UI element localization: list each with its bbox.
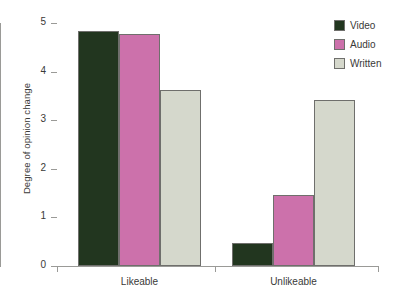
legend-swatch-icon bbox=[334, 20, 345, 31]
x-axis-label-unlikeable: Unlikeable bbox=[234, 276, 354, 287]
legend-label: Video bbox=[350, 20, 375, 31]
bar-written-unlikeable[interactable] bbox=[314, 100, 355, 266]
legend-swatch-icon bbox=[334, 58, 345, 69]
bar-audio-unlikeable[interactable] bbox=[273, 195, 314, 266]
bar-chart: Degree of opinion change 012345 Likeable… bbox=[0, 0, 402, 304]
bar-audio-likeable[interactable] bbox=[119, 34, 160, 266]
bar-video-unlikeable[interactable] bbox=[232, 243, 273, 266]
legend-swatch-icon bbox=[334, 39, 345, 50]
bar-video-likeable[interactable] bbox=[78, 31, 119, 266]
x-axis-line bbox=[57, 266, 379, 267]
bar-written-likeable[interactable] bbox=[160, 90, 201, 266]
x-axis-tick bbox=[57, 266, 58, 272]
chart-legend: VideoAudioWritten bbox=[334, 17, 382, 74]
legend-item-video[interactable]: Video bbox=[334, 17, 382, 34]
legend-item-audio[interactable]: Audio bbox=[334, 36, 382, 53]
x-axis-label-likeable: Likeable bbox=[80, 276, 200, 287]
legend-label: Written bbox=[350, 58, 382, 69]
x-axis-tick bbox=[215, 266, 216, 272]
legend-item-written[interactable]: Written bbox=[334, 55, 382, 72]
legend-label: Audio bbox=[350, 39, 376, 50]
x-axis-tick bbox=[378, 266, 379, 272]
